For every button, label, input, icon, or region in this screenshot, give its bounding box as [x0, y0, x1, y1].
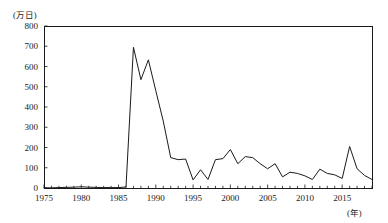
chart-container: (万日) (年) 8007006005004003002001000 19751… [0, 0, 388, 223]
plot-frame [45, 27, 373, 189]
data-series-line [44, 47, 372, 188]
line-chart-plot [0, 0, 388, 223]
